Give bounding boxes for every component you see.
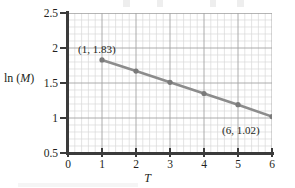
y-axis-title-suffix: ) [30,71,34,85]
x-tick-label-4: 4 [194,159,214,171]
data-point-marker [167,80,172,85]
y-tick-label-0.5: 0.5 [44,148,58,160]
y-axis-title-variable: M [20,71,30,85]
data-point-marker [133,69,138,74]
y-tick-label-1.5: 1.5 [44,78,58,90]
y-tick-label-1: 1 [52,113,58,125]
data-point-marker [201,91,206,96]
x-tick-label-0: 0 [58,159,78,171]
y-tick-2 [60,47,69,49]
y-tick-1 [60,117,69,119]
x-tick-3 [169,148,171,157]
x-tick-label-6: 6 [262,159,282,171]
x-tick-6 [271,148,273,157]
data-point-marker [99,57,104,62]
top-edge-artifact [100,0,290,7]
annotation-first-point: (1, 1.83) [78,44,116,55]
y-tick-1.5 [60,82,69,84]
chart-figure: 2.5 2 1.5 1 0.5 0 1 2 3 4 5 6 ln (M) T (… [0,0,295,188]
x-tick-label-1: 1 [92,159,112,171]
annotation-last-point: (6, 1.02) [222,125,260,136]
x-tick-4 [203,148,205,157]
x-tick-0 [67,148,69,157]
data-point-marker [235,102,240,107]
y-tick-label-2.5: 2.5 [44,8,58,20]
data-line [102,60,272,117]
x-tick-label-5: 5 [228,159,248,171]
y-tick-2.5 [60,12,69,14]
y-axis-title-prefix: ln ( [4,71,20,85]
y-axis-title: ln (M) [4,72,34,84]
x-tick-5 [237,148,239,157]
x-tick-label-3: 3 [160,159,180,171]
x-tick-1 [101,148,103,157]
x-tick-label-2: 2 [126,159,146,171]
bottom-edge-artifact [18,183,138,187]
y-tick-label-2: 2 [52,43,58,55]
x-tick-2 [135,148,137,157]
